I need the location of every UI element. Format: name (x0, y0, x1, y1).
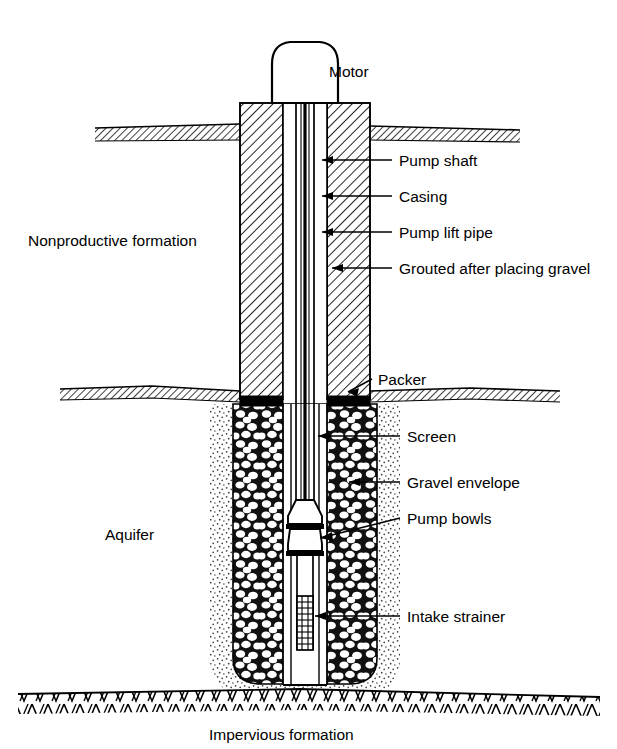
label-pump-shaft: Pump shaft (399, 152, 478, 169)
pump-bowl-lower-flange (286, 551, 324, 556)
label-gravel-envelope: Gravel envelope (407, 474, 520, 491)
label-grouted: Grouted after placing gravel (399, 260, 590, 277)
label-pump-lift-pipe: Pump lift pipe (399, 224, 493, 241)
label-intake-strainer: Intake strainer (407, 608, 505, 625)
label-packer: Packer (378, 371, 426, 388)
intake-strainer-body (297, 596, 313, 650)
label-motor: Motor (329, 63, 369, 80)
label-nonproductive-formation: Nonproductive formation (28, 232, 197, 249)
casing-wall-left (240, 103, 283, 399)
packer-seal-right (327, 396, 370, 406)
intake-strainer-group (297, 596, 313, 650)
label-screen: Screen (407, 428, 456, 445)
packer-seal-left (240, 396, 283, 406)
well-diagram-figure: Motor Pump shaft Casing Pump lift pipe G… (0, 0, 617, 749)
casing-wall-right (327, 103, 370, 399)
label-impervious-formation: Impervious formation (209, 726, 354, 743)
label-casing: Casing (399, 188, 447, 205)
pump-bowl-lower (288, 529, 322, 551)
label-aquifer: Aquifer (105, 526, 154, 543)
label-pump-bowls: Pump bowls (407, 510, 492, 527)
diagram-canvas: Motor Pump shaft Casing Pump lift pipe G… (0, 0, 617, 749)
